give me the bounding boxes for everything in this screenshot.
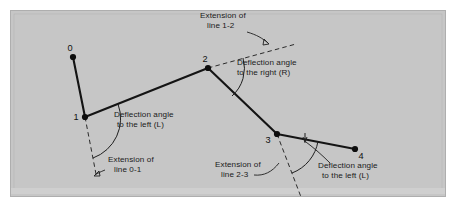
station-dot-2 bbox=[205, 65, 211, 71]
figure-root: 0 1 2 3 4 Extension of line 1-2 Deflecti… bbox=[0, 0, 456, 213]
station-dot-1 bbox=[82, 114, 88, 120]
annotation-extension-2-3-line1: Extension of bbox=[215, 160, 261, 169]
station-label-1: 1 bbox=[73, 112, 78, 122]
annotation-extension-1-2-line2: line 1-2 bbox=[207, 21, 235, 30]
annotation-deflection-left-3-line2: to the left (L) bbox=[322, 171, 369, 180]
annotation-extension-0-1-line2: line 0-1 bbox=[114, 165, 142, 174]
annotation-deflection-right-line2: to the right (R) bbox=[237, 68, 291, 77]
panel-bottom-band bbox=[11, 188, 445, 194]
annotation-deflection-left-1-line1: Deflection angle bbox=[114, 110, 174, 119]
station-dot-3 bbox=[274, 131, 280, 137]
station-label-3: 3 bbox=[265, 135, 270, 145]
annotation-deflection-right-line1: Deflection angle bbox=[237, 58, 297, 67]
annotation-deflection-left-1-line2: to the left (L) bbox=[117, 120, 164, 129]
annotation-extension-0-1-line1: Extension of bbox=[108, 155, 154, 164]
station-label-0: 0 bbox=[67, 43, 72, 53]
annotation-deflection-left-3-line1: Deflection angle bbox=[318, 161, 378, 170]
annotation-extension-2-3-line2: line 2-3 bbox=[221, 170, 249, 179]
station-label-4: 4 bbox=[358, 151, 363, 161]
annotation-extension-1-2-line1: Extension of bbox=[200, 11, 246, 20]
station-dot-0 bbox=[70, 54, 76, 60]
station-label-2: 2 bbox=[202, 54, 207, 64]
deflection-angle-diagram: 0 1 2 3 4 Extension of line 1-2 Deflecti… bbox=[0, 0, 456, 213]
station-dot-4 bbox=[352, 146, 358, 152]
